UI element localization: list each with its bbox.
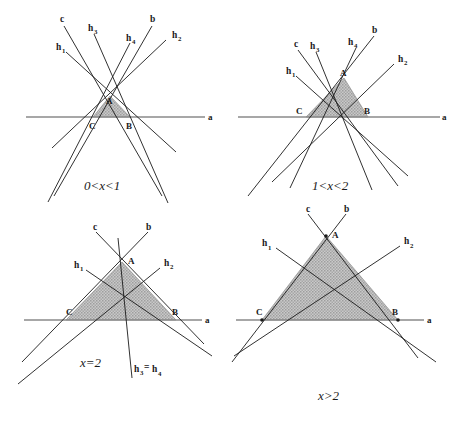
vertex-label-A: A [332,230,339,240]
vertex-dot-A [324,234,328,238]
vertex-label-A: A [106,96,113,106]
panel-caption: 1<x<2 [312,178,349,193]
panel-caption: x=2 [79,355,102,370]
panel-caption: x>2 [317,388,340,403]
axis-label-a: a [208,112,213,122]
label-line-h1-sub: 1 [268,244,272,251]
figure-canvas: c b h 1 h 2 h 3 h 4 A B C a 0<x<1 c b h [0,0,472,431]
axis-label-a: a [205,315,210,325]
panel-caption: 0<x<1 [84,178,120,193]
vertex-label-C: C [256,307,263,317]
vertex-label-A: A [128,256,135,266]
vertex-dot-B [396,318,400,322]
label-line-c: c [306,204,310,214]
label-line-h1-sub: 1 [62,47,66,54]
label-line-h4-sub: 4 [132,38,136,45]
label-line-h2-sub: 2 [170,263,174,270]
vertex-dot-C [260,318,264,322]
vertex-label-B: B [392,307,398,317]
vertex-label-B: B [126,121,132,131]
vertex-label-A: A [340,68,347,78]
label-line-h2-sub: 2 [410,242,414,249]
vertex-label-B: B [364,106,370,116]
label-line-h1-sub: 1 [80,265,84,272]
label-line-h3-equals-h4-sub2: 4 [158,370,162,377]
label-line-b: b [372,25,377,35]
label-line-h4-sub: 4 [354,42,358,49]
label-line-h3-equals-h4-eq: = [144,362,149,372]
label-line-b: b [146,222,151,232]
vertex-label-B: B [172,307,178,317]
label-line-h3-sub: 3 [316,46,320,53]
vertex-label-C: C [66,307,73,317]
figure-background [0,0,472,431]
label-line-b: b [150,14,155,24]
label-line-h3-sub: 3 [94,28,98,35]
label-line-h2-sub: 2 [404,59,408,66]
label-line-c: c [93,222,97,232]
label-line-c: c [60,14,64,24]
label-line-c: c [294,39,298,49]
label-line-h2-sub: 2 [178,35,182,42]
vertex-label-C: C [89,121,96,131]
label-line-h1-sub: 1 [292,71,296,78]
vertex-label-C: C [296,106,303,116]
axis-label-a: a [427,315,432,325]
label-line-b: b [344,204,349,214]
axis-label-a: a [442,112,447,122]
